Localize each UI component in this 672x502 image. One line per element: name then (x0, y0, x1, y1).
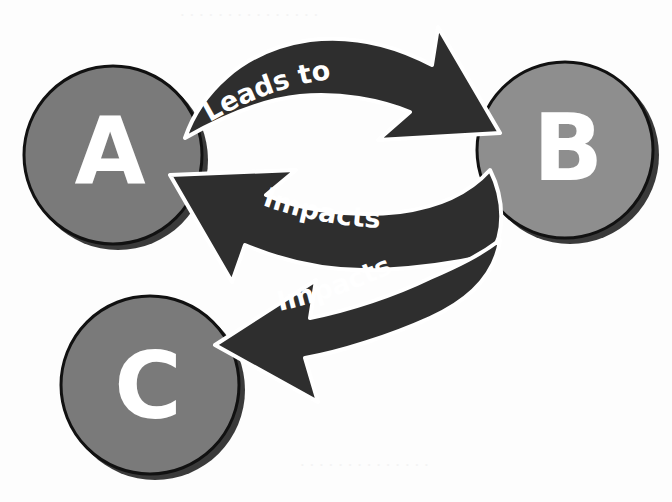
node-c-label: C (114, 333, 182, 440)
node-a-label: A (74, 98, 145, 205)
node-c[interactable]: C (61, 296, 245, 480)
svg-text:· · · · · · · · · · · · · ·: · · · · · · · · · · · · · · (300, 456, 429, 474)
arrow-leads-to[interactable]: Leads to (185, 27, 500, 140)
svg-text:· · · · · · · · · · · · · · ·: · · · · · · · · · · · · · · · (180, 6, 318, 24)
node-a[interactable]: A (24, 66, 208, 250)
node-b[interactable]: B (477, 62, 659, 244)
diagram-svg: · · · · · · · · · · · · · · · · · · · · … (0, 0, 672, 502)
node-b-label: B (533, 95, 603, 202)
diagram-canvas: · · · · · · · · · · · · · · · · · · · · … (0, 0, 672, 502)
